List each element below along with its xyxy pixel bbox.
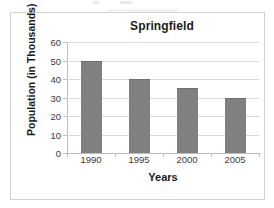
- gridline: [67, 42, 259, 43]
- y-tick-label: 10: [50, 129, 61, 140]
- x-tick-label: 2005: [224, 154, 245, 165]
- y-tick-label: 50: [50, 55, 61, 66]
- x-tick-mark: [163, 153, 164, 157]
- x-tick-mark: [259, 153, 260, 157]
- y-tick-mark: [63, 61, 67, 62]
- y-tick-mark: [63, 79, 67, 80]
- x-tick-mark: [67, 153, 68, 157]
- x-axis-title: Years: [67, 171, 259, 183]
- y-tick-mark: [63, 135, 67, 136]
- y-axis-title: Population (in Thousands): [25, 4, 37, 136]
- scan-speckle: [120, 1, 132, 4]
- bar-chart: Springfield Population (in Thousands) 60…: [10, 12, 265, 200]
- y-tick-label: 20: [50, 111, 61, 122]
- x-tick-mark: [211, 153, 212, 157]
- scan-speckle: [93, 1, 99, 4]
- bar: [225, 98, 246, 154]
- y-tick-label: 40: [50, 74, 61, 85]
- bar: [177, 88, 198, 153]
- y-tick-label: 30: [50, 92, 61, 103]
- bar: [81, 61, 102, 154]
- y-tick-mark: [63, 98, 67, 99]
- y-tick-mark: [63, 42, 67, 43]
- y-tick-label: 60: [50, 37, 61, 48]
- x-tick-label: 2000: [176, 154, 197, 165]
- plot-area: 6050403020100 1990199520002005: [67, 42, 259, 153]
- y-tick-label: 0: [56, 148, 61, 159]
- x-tick-mark: [115, 153, 116, 157]
- x-tick-label: 1995: [128, 154, 149, 165]
- chart-title: Springfield: [67, 19, 257, 33]
- y-tick-mark: [63, 116, 67, 117]
- x-tick-label: 1990: [80, 154, 101, 165]
- bar: [129, 79, 150, 153]
